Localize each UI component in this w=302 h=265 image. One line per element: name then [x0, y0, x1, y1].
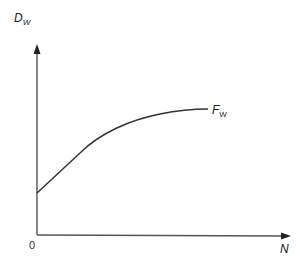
x-axis-label: N	[280, 243, 289, 255]
y-axis-arrow-icon	[34, 44, 41, 54]
diagram-canvas	[0, 0, 302, 265]
x-axis-arrow-icon	[281, 233, 291, 240]
curve-subscript: W	[219, 110, 227, 119]
origin-label: 0	[29, 240, 35, 251]
y-axis-subscript: W	[23, 18, 31, 27]
y-axis-symbol: D	[14, 11, 23, 25]
y-axis	[34, 44, 41, 235]
x-axis	[37, 233, 291, 240]
y-axis-label: DW	[14, 12, 30, 27]
fw-curve	[37, 109, 208, 193]
curve-label: FW	[212, 104, 227, 119]
